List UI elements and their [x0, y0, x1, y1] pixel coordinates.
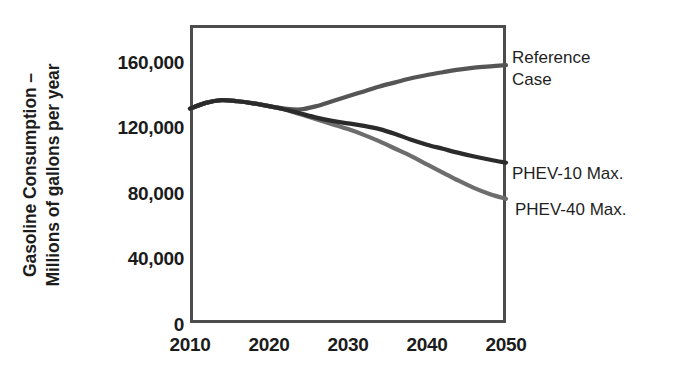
x-tick-label: 2050 — [485, 334, 526, 356]
y-tick-label: 80,000 — [66, 183, 184, 205]
annotation-phev-10-max: PHEV-10 Max. — [512, 163, 624, 185]
x-tick-label: 2030 — [327, 334, 368, 356]
y-axis-title-line-1: Gasoline Consumption – — [19, 64, 42, 287]
annotation-line: Case — [512, 69, 590, 91]
series-line-phev-10-max — [190, 100, 506, 163]
x-tick-label: 2010 — [169, 334, 210, 356]
y-tick-label: 40,000 — [66, 248, 184, 270]
x-axis-tick-labels: 20102020203020402050 — [0, 334, 692, 366]
y-tick-label: 120,000 — [66, 117, 184, 139]
x-tick-label: 2040 — [406, 334, 447, 356]
annotation-phev-40-max: PHEV-40 Max. — [515, 199, 627, 221]
annotation-line: Reference — [512, 47, 590, 69]
annotation-line: PHEV-10 Max. — [512, 163, 624, 185]
y-tick-label: 160,000 — [66, 52, 184, 74]
x-tick-label: 2020 — [248, 334, 289, 356]
annotation-line: PHEV-40 Max. — [515, 199, 627, 221]
gasoline-consumption-line-chart: Gasoline Consumption – Millions of gallo… — [0, 0, 692, 389]
plot-series-layer — [190, 25, 506, 323]
annotation-reference-case: ReferenceCase — [512, 47, 590, 91]
series-line-phev-40-max — [190, 100, 506, 199]
y-axis-tick-labels: 040,00080,000120,000160,000 — [62, 0, 184, 389]
y-tick-label: 0 — [66, 314, 184, 336]
